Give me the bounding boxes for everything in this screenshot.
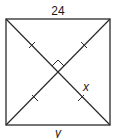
bottom-side-label: y xyxy=(54,126,62,138)
right-angle-marker xyxy=(52,60,64,66)
diagram-canvas: 24 x y xyxy=(0,0,117,138)
top-side-label: 24 xyxy=(51,4,65,18)
square-diagram: 24 x y xyxy=(0,0,117,138)
half-diagonal-label: x xyxy=(82,80,90,94)
